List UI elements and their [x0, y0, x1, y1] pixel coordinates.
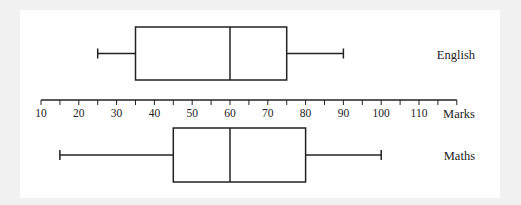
tick-label: 70 — [262, 107, 274, 119]
iqr-box — [136, 27, 287, 80]
tick-label: 60 — [224, 107, 236, 119]
x-axis-label: Marks — [443, 107, 475, 121]
tick-label: 80 — [300, 107, 312, 119]
marks-axis: 102030405060708090100110Marks — [35, 100, 475, 121]
tick-label: 30 — [111, 107, 123, 119]
tick-label: 90 — [338, 107, 350, 119]
boxplot-english: English — [98, 27, 476, 80]
tick-label: 50 — [186, 107, 198, 119]
boxplot-maths: Maths — [60, 128, 475, 182]
tick-label: 10 — [35, 107, 47, 119]
series-label: English — [437, 48, 476, 62]
tick-label: 20 — [73, 107, 85, 119]
series-label: Maths — [444, 149, 475, 163]
tick-label: 40 — [149, 107, 161, 119]
tick-label: 100 — [373, 107, 391, 119]
iqr-box — [173, 128, 305, 182]
tick-label: 110 — [411, 107, 428, 119]
box-plot-chart: EnglishMaths 102030405060708090100110Mar… — [0, 0, 521, 205]
